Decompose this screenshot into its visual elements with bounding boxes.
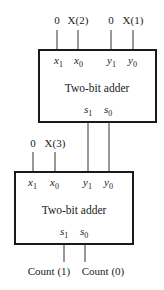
adder-diagram: 0 X(2) 0 X(1) x1 x0 y1 y0 Two-bit adder … — [0, 0, 164, 290]
count-0-label: Count (0) — [82, 265, 125, 278]
count-1-label: Count (1) — [28, 265, 71, 278]
bottom-adder-title: Two-bit adder — [42, 204, 107, 216]
bottom-input-x1-signal: 0 — [30, 137, 36, 149]
bottom-adder: 0 X(3) x1 x0 y1 y0 Two-bit adder s1 s0 C… — [15, 137, 133, 278]
top-adder-title: Two-bit adder — [65, 82, 130, 94]
top-input-y0-signal: X(1) — [123, 14, 144, 27]
top-input-y1-signal: 0 — [108, 14, 114, 26]
bottom-input-x0-signal: X(3) — [45, 137, 66, 150]
top-input-x0-signal: X(2) — [68, 14, 89, 27]
top-input-x1-signal: 0 — [54, 14, 60, 26]
top-adder: 0 X(2) 0 X(1) x1 x0 y1 y0 Two-bit adder … — [39, 14, 156, 122]
